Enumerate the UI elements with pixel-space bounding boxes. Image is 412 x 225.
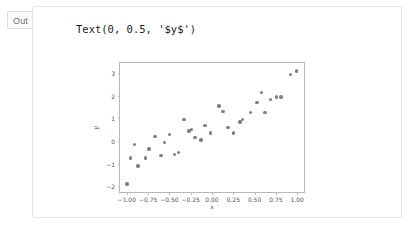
y-tick-mark xyxy=(118,118,121,119)
y-tick-label: 2 xyxy=(111,92,115,99)
output-area: Text(0, 0.5, '$y$') −1.00−0.75−0.50−0.25… xyxy=(32,6,402,218)
data-point xyxy=(263,111,266,114)
data-point xyxy=(163,141,166,144)
data-point xyxy=(260,91,263,94)
data-point xyxy=(289,73,292,76)
y-tick-label: −1 xyxy=(106,160,115,167)
x-tick-mark xyxy=(191,192,192,195)
data-point xyxy=(153,135,156,138)
data-point xyxy=(275,95,278,98)
y-tick-label: 3 xyxy=(111,70,115,77)
y-tick-label: −2 xyxy=(106,183,115,190)
plot-axes: −1.00−0.75−0.50−0.250.000.250.500.751.00… xyxy=(119,62,305,193)
x-tick-label: −0.25 xyxy=(182,196,200,203)
x-tick-mark xyxy=(148,192,149,195)
y-tick-mark xyxy=(118,186,121,187)
data-point xyxy=(255,101,258,104)
x-tick-label: −0.50 xyxy=(160,196,178,203)
x-tick-mark xyxy=(297,192,298,195)
data-point xyxy=(241,118,244,121)
output-prompt-label: Out xyxy=(7,11,34,29)
x-tick-label: 0.50 xyxy=(248,196,261,203)
y-tick-mark xyxy=(118,164,121,165)
data-point xyxy=(168,133,171,136)
data-point xyxy=(125,182,128,185)
data-point xyxy=(190,128,193,131)
data-point xyxy=(209,131,212,134)
data-point xyxy=(279,95,282,98)
x-tick-mark xyxy=(212,192,213,195)
x-tick-label: 0.00 xyxy=(205,196,218,203)
y-tick-mark xyxy=(118,96,121,97)
data-point xyxy=(221,110,224,113)
data-point xyxy=(217,104,220,107)
y-axis-label: y xyxy=(92,126,100,130)
data-point xyxy=(295,69,298,72)
matplotlib-figure: −1.00−0.75−0.50−0.250.000.250.500.751.00… xyxy=(81,51,321,219)
y-tick-label: 1 xyxy=(111,115,115,122)
data-point xyxy=(182,118,185,121)
data-point xyxy=(199,138,202,141)
x-tick-mark xyxy=(169,192,170,195)
data-point xyxy=(226,126,229,129)
notebook-output-cell: Out Text(0, 0.5, '$y$') −1.00−0.75−0.50−… xyxy=(0,0,412,225)
x-tick-label: −0.75 xyxy=(139,196,157,203)
data-point xyxy=(136,164,139,167)
y-tick-label: 0 xyxy=(111,138,115,145)
x-tick-label: 0.25 xyxy=(227,196,240,203)
x-tick-label: 0.75 xyxy=(269,196,282,203)
data-point xyxy=(173,153,176,156)
data-point xyxy=(203,124,206,127)
x-tick-mark xyxy=(276,192,277,195)
data-point xyxy=(177,151,180,154)
x-tick-label: 1.00 xyxy=(290,196,303,203)
y-tick-mark xyxy=(118,141,121,142)
data-point xyxy=(144,156,147,159)
x-axis-label: x xyxy=(210,203,214,211)
y-tick-mark xyxy=(118,73,121,74)
x-tick-mark xyxy=(127,192,128,195)
data-point xyxy=(269,98,272,101)
data-point xyxy=(159,154,162,157)
data-point xyxy=(193,136,196,139)
x-tick-mark xyxy=(233,192,234,195)
data-point xyxy=(249,111,252,114)
x-tick-mark xyxy=(255,192,256,195)
data-point xyxy=(147,147,150,150)
output-repr-text: Text(0, 0.5, '$y$') xyxy=(76,23,196,36)
data-point xyxy=(133,143,136,146)
x-tick-label: −1.00 xyxy=(118,196,136,203)
data-point xyxy=(232,131,235,134)
data-point xyxy=(129,156,132,159)
